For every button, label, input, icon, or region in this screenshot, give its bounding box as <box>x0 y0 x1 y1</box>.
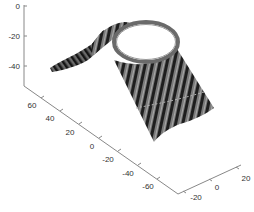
y-tick-label: -20 <box>102 155 114 164</box>
z-tick-label: -40 <box>8 62 20 71</box>
surface-loop-ring <box>114 22 178 62</box>
y-tick-label: -40 <box>122 169 134 178</box>
y-tick-label: 20 <box>66 128 75 137</box>
y-tick-label: 60 <box>28 101 37 110</box>
z-tick-label: 0 <box>16 2 21 11</box>
y-tick-label: 40 <box>46 114 55 123</box>
x-tick-label: -20 <box>190 193 202 202</box>
y-tick-label: 0 <box>90 142 95 151</box>
x-tick-label: 20 <box>242 174 251 183</box>
z-tick-label: -20 <box>8 32 20 41</box>
z-axis: 0 -20 -40 <box>8 2 27 86</box>
surface-plot-3d: 0 -20 -40 60 40 20 0 -20 -40 -60 -20 0 2… <box>0 0 254 212</box>
y-tick-label: -60 <box>142 182 154 191</box>
x-tick-label: 0 <box>215 183 220 192</box>
x-axis: -20 0 20 <box>178 165 251 202</box>
surface <box>50 22 214 142</box>
